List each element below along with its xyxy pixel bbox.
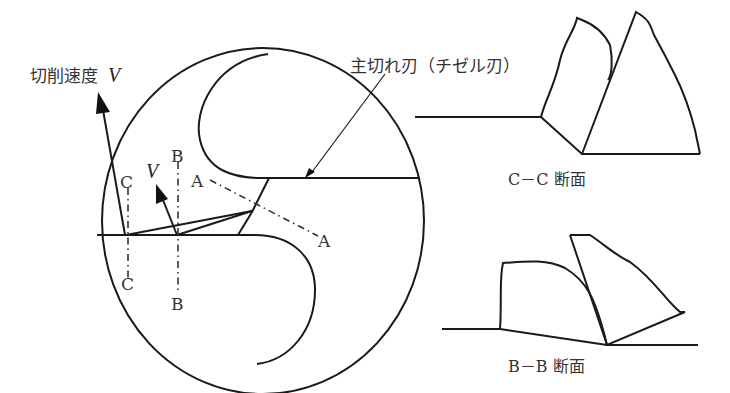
section-b-bottom-label: B <box>171 294 184 314</box>
section-c-top-label: C <box>120 172 133 192</box>
cutting-speed-symbol: V <box>108 64 123 86</box>
section-c-bottom-label: C <box>121 274 134 294</box>
section-a-bottom-label: A <box>317 231 331 251</box>
section-a-top-label: A <box>190 171 204 191</box>
drill-outline-circle <box>102 48 424 393</box>
section-b-top-label: B <box>171 146 184 166</box>
section-cc-drawing <box>415 12 700 154</box>
cutting-speed-label: 切削速度 <box>30 66 98 86</box>
local-speed-symbol: V <box>146 160 161 182</box>
section-bb-drawing <box>442 235 698 345</box>
main-edge-leader-line <box>312 74 385 172</box>
local-speed-arrow-head <box>156 184 168 204</box>
local-speed-arrow-shaft <box>163 200 177 235</box>
section-cc-caption: C－C 断面 <box>508 170 586 189</box>
chisel-web-line <box>238 178 269 235</box>
lower-flute-curve <box>97 235 315 364</box>
section-bb-caption: B－B 断面 <box>508 357 585 376</box>
main-edge-label: 主切れ刃（チゼル刃） <box>350 56 520 76</box>
diagram-canvas: 切削速度 V V 主切れ刃（チゼル刃） C C B B A A C－C 断面 B… <box>0 0 730 393</box>
cutting-speed-arrow-head <box>96 92 110 114</box>
